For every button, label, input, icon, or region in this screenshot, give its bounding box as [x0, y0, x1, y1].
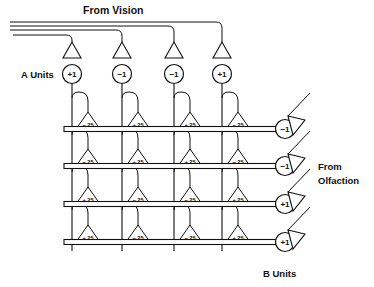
a-unit-value-4: +1 [217, 70, 227, 79]
vision-input-bus [10, 22, 222, 42]
synapse-hook-r3c1 [72, 166, 88, 193]
b-dendrite-bar-4 [64, 240, 277, 245]
a-unit-value-1: +1 [67, 70, 77, 79]
a-unit-value-2: −1 [117, 70, 127, 79]
a-unit-input-triangles [63, 42, 231, 58]
a-input-triangle-2 [113, 42, 131, 58]
synapse-hook-r3c3 [174, 166, 190, 193]
a-input-triangle-1 [63, 42, 81, 58]
b-unit-value-4: +1 [280, 238, 290, 247]
vision-line-4 [13, 35, 72, 42]
olfaction-line-1 [288, 93, 310, 116]
b-dendrite-bar-3 [64, 202, 277, 207]
b-unit-value-2: −1 [280, 162, 290, 171]
from-olfaction-label-line1: From [318, 161, 342, 172]
synapse-hook-r4c1 [72, 204, 88, 231]
a-units-label: A Units [21, 69, 54, 80]
a-unit-value-3: −1 [169, 70, 179, 79]
a-input-triangle-3 [165, 42, 183, 58]
a-input-triangle-4 [213, 42, 231, 58]
a-unit-circles: +1 −1 −1 +1 [63, 65, 232, 84]
neural-network-diagram: From Vision A Units +1 −1 −1 +1 [0, 0, 374, 287]
vision-line-1 [10, 22, 222, 42]
synapse-hook-r3c4 [222, 166, 238, 193]
b-dendrite-bar-2 [64, 164, 277, 169]
synapse-hook-r3c2 [122, 166, 138, 193]
b-unit-dendrite-bars [64, 127, 277, 245]
synapse-hook-r4c4 [222, 204, 238, 231]
synapse-hook-r4c3 [174, 204, 190, 231]
from-vision-label: From Vision [83, 4, 143, 16]
vision-line-2 [10, 26, 174, 42]
synapse-hook-r4c2 [122, 204, 138, 231]
vision-line-3 [10, 30, 122, 42]
from-olfaction-label-line2: Olfaction [318, 175, 359, 186]
b-unit-value-3: +1 [280, 200, 290, 209]
b-units-label: B Units [263, 268, 296, 279]
b-dendrite-bar-1 [64, 127, 277, 132]
b-unit-value-1: −1 [280, 125, 290, 134]
